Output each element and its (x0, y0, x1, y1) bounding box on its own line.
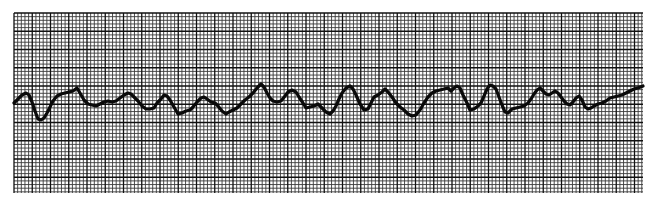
ecg-strip (0, 0, 653, 204)
